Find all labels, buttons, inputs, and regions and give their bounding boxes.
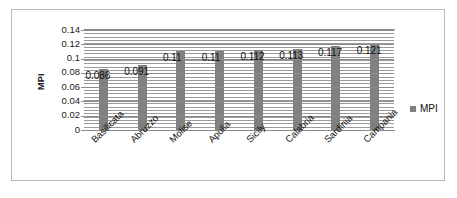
bar-value-label: 0.121 — [357, 45, 382, 56]
y-tick-label: 0.14 — [46, 25, 80, 35]
bar-value-label: 0.112 — [240, 51, 264, 62]
legend: MPI — [410, 103, 438, 114]
major-gridline — [84, 30, 394, 31]
bar[interactable] — [254, 50, 263, 130]
y-tick-mark — [81, 59, 84, 60]
y-tick-label: 0 — [46, 125, 80, 135]
y-tick-mark — [81, 30, 84, 31]
y-tick-mark — [81, 87, 84, 88]
y-tick-label: 0.04 — [46, 96, 80, 106]
y-tick-mark — [81, 44, 84, 45]
major-gridline — [84, 87, 394, 88]
y-tick-label: 0.06 — [46, 82, 80, 92]
y-tick-label: 0.12 — [46, 39, 80, 49]
y-tick-mark — [81, 130, 84, 131]
y-tick-label: 0.02 — [46, 110, 80, 120]
y-tick-mark — [81, 101, 84, 102]
y-tick-mark — [81, 116, 84, 117]
major-gridline — [84, 101, 394, 102]
y-axis-tick-labels: 00.020.040.060.080.10.120.14 — [44, 10, 80, 150]
chart-frame: MPI 00.020.040.060.080.10.120.14 0.0860.… — [11, 9, 445, 181]
bar-value-label: 0.11 — [163, 52, 182, 63]
bar-value-label: 0.113 — [279, 50, 303, 61]
bar-value-label: 0.11 — [202, 52, 221, 63]
legend-swatch-mpi — [410, 106, 416, 112]
bar-value-label: 0.091 — [124, 66, 149, 77]
y-tick-label: 0.1 — [46, 53, 80, 63]
legend-label-mpi: MPI — [420, 103, 438, 114]
bar-value-label: 0.117 — [318, 47, 342, 58]
major-gridline — [84, 59, 394, 60]
chart-figure: MPI 00.020.040.060.080.10.120.14 0.0860.… — [0, 0, 457, 198]
major-gridline — [84, 44, 394, 45]
major-gridline — [84, 130, 394, 131]
y-tick-mark — [81, 73, 84, 74]
y-tick-label: 0.08 — [46, 67, 80, 77]
bar-value-label: 0.086 — [85, 70, 110, 81]
